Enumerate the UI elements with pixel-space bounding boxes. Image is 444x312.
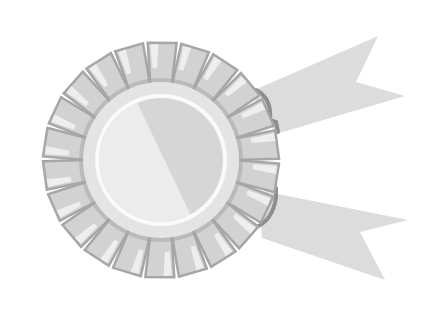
award-rosette-illustration bbox=[0, 0, 444, 312]
rosette-center-disc bbox=[79, 78, 243, 242]
ribbon-tail-bottom bbox=[258, 190, 408, 280]
